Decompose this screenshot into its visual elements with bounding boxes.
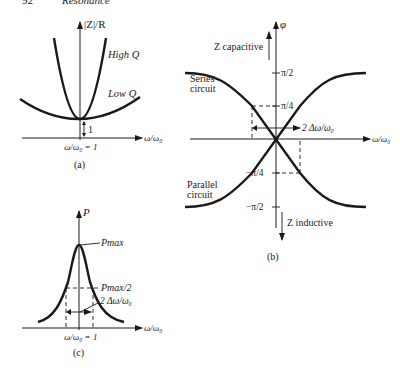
tick-neg-pi-2: −π/2 bbox=[246, 202, 264, 212]
caption-b: (b) bbox=[267, 251, 279, 263]
panel-c: P Pmax Pmax/2 2 Δω/ω₀ ω/ω₀ ω/ω₀ = 1 (c) bbox=[22, 206, 162, 359]
caption-a: (a) bbox=[74, 159, 85, 171]
unit-label: 1 bbox=[88, 124, 93, 135]
series-label: Seriescircuit bbox=[190, 73, 216, 94]
caption-c: (c) bbox=[73, 347, 84, 359]
y-axis-label: |Z|/R bbox=[84, 18, 106, 30]
pmax-label: Pmax bbox=[100, 237, 124, 248]
inductive-label: Z inductive bbox=[287, 217, 333, 228]
x-tick-label: ω/ω₀ = 1 bbox=[64, 142, 97, 152]
x-axis-label: ω/ω₀ bbox=[144, 133, 162, 143]
bandwidth-label: 2 Δω/ω₀ bbox=[100, 296, 132, 306]
y-axis-label: φ bbox=[280, 18, 286, 30]
x-axis-label: ω/ω₀ bbox=[144, 323, 162, 333]
low-q-label: Low Q bbox=[107, 88, 137, 99]
bandwidth-label: 2 Δω/ω₀ bbox=[302, 123, 334, 133]
x-axis-label: ω/ω₀ bbox=[372, 134, 390, 144]
page-header: 92 Resonance bbox=[22, 0, 110, 6]
capacitive-label: Z capacitive bbox=[214, 41, 264, 52]
high-q-label: High Q bbox=[107, 49, 140, 60]
x-tick-label: ω/ω₀ = 1 bbox=[64, 332, 97, 342]
pmax-half-label: Pmax/2 bbox=[100, 282, 132, 293]
panel-b: π/2 π/4 −π/4 −π/2 2 Δω/ω₀ φ ω/ω₀ Z capac… bbox=[185, 18, 390, 263]
tick-pi-2: π/2 bbox=[281, 68, 293, 78]
running-title: Resonance bbox=[61, 0, 110, 6]
parallel-label: Parallelcircuit bbox=[187, 179, 218, 200]
panel-a: 1 |Z|/R High Q Low Q ω/ω₀ ω/ω₀ = 1 (a) bbox=[20, 18, 162, 171]
tick-pi-4: π/4 bbox=[281, 101, 293, 111]
y-axis-label: P bbox=[82, 206, 90, 218]
page-number: 92 bbox=[22, 0, 33, 6]
resonance-figure: 92 Resonance 1 |Z|/R High Q Low Q ω/ω₀ ω… bbox=[0, 0, 400, 370]
